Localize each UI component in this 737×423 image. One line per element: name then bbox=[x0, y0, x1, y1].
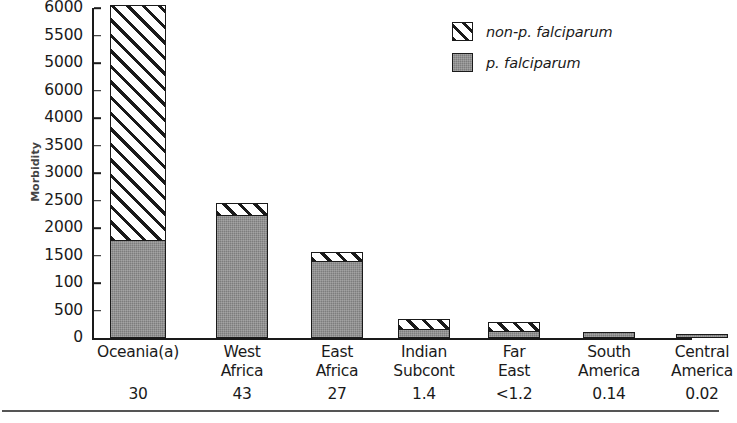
x-axis-line bbox=[92, 338, 692, 340]
x-category-label: Oceania(a) bbox=[78, 343, 198, 362]
stacked-bar bbox=[398, 319, 450, 338]
bar-slot bbox=[676, 8, 728, 338]
bar-slot bbox=[216, 8, 268, 338]
bar-segment-non-p-falciparum bbox=[488, 322, 540, 332]
bar-segment-p-falciparum bbox=[311, 262, 363, 338]
y-tick-label: 6000 bbox=[44, 83, 92, 99]
bar-segment-p-falciparum bbox=[488, 332, 540, 338]
stacked-bar bbox=[488, 322, 540, 338]
bar-segment-p-falciparum bbox=[110, 241, 166, 338]
legend-swatch-solid-icon bbox=[452, 53, 473, 72]
stacked-bar bbox=[110, 5, 166, 338]
bar-slot bbox=[110, 8, 166, 338]
bar-segment-p-falciparum bbox=[676, 334, 728, 338]
footer-rule bbox=[2, 410, 719, 412]
bar-slot bbox=[311, 8, 363, 338]
y-axis-title: Morbidity bbox=[29, 142, 42, 202]
legend-swatch-hatch-icon bbox=[452, 22, 473, 41]
y-tick-label: 6000 bbox=[44, 0, 92, 16]
legend-item-non-p-falciparum: non-p. falciparum bbox=[452, 22, 613, 41]
y-tick-label: 2000 bbox=[44, 220, 92, 236]
stacked-bar bbox=[216, 203, 268, 338]
y-tick-label: 100 bbox=[54, 275, 92, 291]
x-axis-value-row: 3043271.4<1.20.140.02 bbox=[94, 385, 692, 409]
bar-slot bbox=[398, 8, 450, 338]
x-axis-category-labels: Oceania(a)WestAfricaEastAfricaIndianSubc… bbox=[94, 343, 692, 385]
y-tick-label: 1500 bbox=[44, 248, 92, 264]
legend-label-p-falciparum: p. falciparum bbox=[486, 55, 581, 71]
y-tick-label: 3500 bbox=[44, 138, 92, 154]
y-tick-label: 5500 bbox=[44, 28, 92, 44]
legend-label-non-p-falciparum: non-p. falciparum bbox=[486, 24, 613, 40]
bar-segment-p-falciparum bbox=[398, 330, 450, 338]
stacked-bar bbox=[583, 332, 635, 338]
y-tick-label: 500 bbox=[54, 303, 92, 319]
stacked-bar bbox=[676, 334, 728, 338]
bar-segment-non-p-falciparum bbox=[311, 252, 363, 262]
y-tick-label: 2500 bbox=[44, 193, 92, 209]
bar-segment-p-falciparum bbox=[583, 332, 635, 338]
bar-segment-p-falciparum bbox=[216, 216, 268, 338]
y-tick-label: 3000 bbox=[44, 165, 92, 181]
x-category-value: 30 bbox=[78, 385, 198, 404]
x-category-label: CentralAmerica bbox=[642, 343, 737, 381]
x-category-value: 0.02 bbox=[642, 385, 737, 404]
stacked-bar bbox=[311, 252, 363, 338]
legend-item-p-falciparum: p. falciparum bbox=[452, 53, 613, 72]
bar-segment-non-p-falciparum bbox=[216, 203, 268, 217]
bar-segment-non-p-falciparum bbox=[398, 319, 450, 329]
bar-segment-non-p-falciparum bbox=[110, 5, 166, 241]
chart-legend: non-p. falciparum p. falciparum bbox=[452, 22, 613, 84]
y-tick-label: 4000 bbox=[44, 110, 92, 126]
y-tick-label: 5000 bbox=[44, 55, 92, 71]
